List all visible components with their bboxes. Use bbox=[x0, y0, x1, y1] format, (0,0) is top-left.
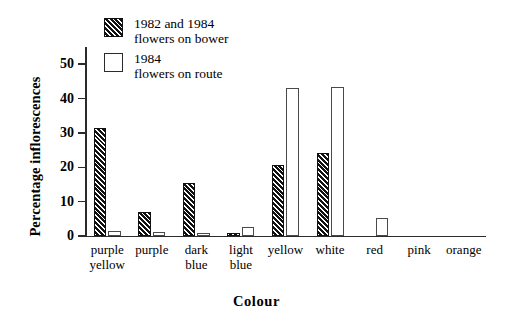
chart-legend: 1982 and 1984 flowers on bower 1984 flow… bbox=[104, 16, 334, 86]
bar bbox=[331, 87, 344, 236]
y-tick-50 bbox=[78, 63, 85, 64]
bar-chart-figure: Percentage inflorescences 01020304050 pu… bbox=[0, 0, 513, 324]
x-category-label: orange bbox=[424, 243, 504, 258]
bar bbox=[197, 233, 210, 236]
y-tick-0 bbox=[78, 235, 85, 236]
x-category-label-line: yellow bbox=[67, 258, 147, 273]
bar bbox=[317, 153, 330, 237]
bar-group bbox=[441, 47, 486, 236]
legend-label-route-line2: flowers on route bbox=[134, 66, 222, 81]
legend-swatch-hatched-icon bbox=[104, 18, 123, 37]
legend-label-route-line1: 1984 bbox=[134, 51, 222, 66]
y-tick-label-40: 40 bbox=[46, 92, 74, 106]
bar bbox=[286, 88, 299, 236]
x-category-label-line: blue bbox=[201, 258, 281, 273]
bar bbox=[108, 231, 121, 236]
y-tick-label-20: 20 bbox=[46, 160, 74, 174]
bar-group bbox=[352, 47, 397, 236]
bar bbox=[242, 227, 255, 236]
legend-label-bower: 1982 and 1984 flowers on bower bbox=[134, 16, 228, 46]
y-tick-30 bbox=[78, 132, 85, 133]
y-tick-10 bbox=[78, 201, 85, 202]
x-category-label-line: orange bbox=[424, 243, 504, 258]
legend-item-bower: 1982 and 1984 flowers on bower bbox=[104, 16, 334, 46]
y-tick-40 bbox=[78, 98, 85, 99]
bar bbox=[138, 212, 151, 236]
y-tick-label-50: 50 bbox=[46, 57, 74, 71]
legend-item-route: 1984 flowers on route bbox=[104, 51, 334, 81]
bar bbox=[94, 128, 107, 236]
bar bbox=[227, 233, 240, 236]
x-axis-title: Colour bbox=[0, 293, 513, 310]
bar-group bbox=[397, 47, 442, 236]
bar bbox=[272, 165, 285, 236]
y-tick-label-30: 30 bbox=[46, 126, 74, 140]
y-tick-label-0: 0 bbox=[46, 229, 74, 243]
bar bbox=[183, 183, 196, 236]
legend-swatch-open-icon bbox=[104, 53, 123, 72]
bar bbox=[153, 232, 166, 236]
legend-label-route: 1984 flowers on route bbox=[134, 51, 222, 81]
y-tick-label-10: 10 bbox=[46, 195, 74, 209]
legend-label-bower-line2: flowers on bower bbox=[134, 31, 228, 46]
y-axis-title: Percentage inflorescences bbox=[27, 52, 44, 262]
y-tick-20 bbox=[78, 167, 85, 168]
legend-label-bower-line1: 1982 and 1984 bbox=[134, 16, 228, 31]
bar bbox=[376, 218, 389, 236]
